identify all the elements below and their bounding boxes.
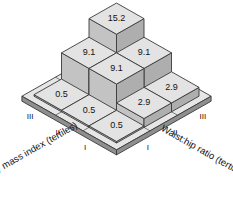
chart-canvas: 15.29.19.12.99.10.52.90.50.5 IIIIIIIIIII… [0, 0, 233, 212]
bar-value-I-III: 2.9 [165, 82, 178, 92]
bar-value-III-I: 0.5 [55, 89, 68, 99]
tick-whr-III: III [199, 112, 206, 121]
bar-value-II-II: 9.1 [110, 63, 123, 73]
bar-value-III-II: 9.1 [83, 47, 96, 57]
axis-title-whr: Waist:hip ratio (tertiles) [159, 123, 233, 180]
bar-value-II-I: 0.5 [83, 105, 96, 115]
tick-whr-I: I [147, 143, 149, 152]
bar-value-II-III: 9.1 [138, 47, 151, 57]
axis-title-bmi: Body mass index (tertiles) [0, 119, 79, 183]
tick-bmi-III: III [27, 112, 34, 121]
bar-value-I-II: 2.9 [138, 97, 151, 107]
tick-bmi-I: I [84, 143, 86, 152]
bar-chart-3d: 15.29.19.12.99.10.52.90.50.5 IIIIIIIIIII… [0, 0, 233, 212]
bar-value-III-III: 15.2 [108, 13, 126, 23]
bar-value-I-I: 0.5 [110, 120, 123, 130]
